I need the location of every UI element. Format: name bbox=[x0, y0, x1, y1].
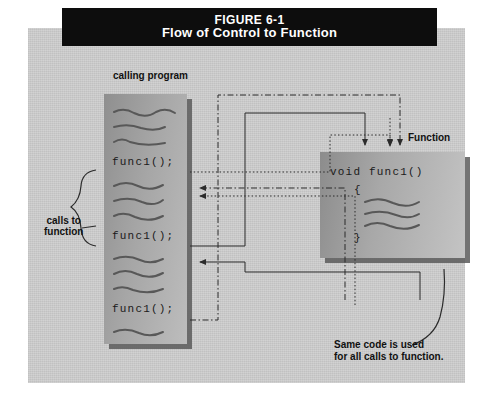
label-calls-to-function: calls to function bbox=[44, 215, 83, 237]
calling-program-call-1: func1(); bbox=[112, 156, 174, 168]
calling-program-box: func1(); func1(); func1(); bbox=[104, 94, 187, 344]
function-close-brace: } bbox=[354, 232, 362, 244]
label-calls-to-function-line1: calls to bbox=[44, 215, 83, 226]
figure-caption-title: Flow of Control to Function bbox=[162, 26, 337, 40]
label-same-code-line1: Same code is used bbox=[334, 339, 443, 351]
function-signature: void func1() bbox=[330, 166, 424, 178]
figure-caption-bar: FIGURE 6-1 Flow of Control to Function bbox=[62, 8, 437, 46]
label-same-code-line2: for all calls to function. bbox=[334, 351, 443, 363]
calling-program-call-2: func1(); bbox=[112, 230, 174, 242]
calling-program-call-3: func1(); bbox=[112, 303, 174, 315]
label-same-code-is-used: Same code is used for all calls to funct… bbox=[334, 339, 443, 363]
label-function: Function bbox=[408, 132, 450, 144]
label-calls-to-function-line2: function bbox=[44, 226, 83, 237]
label-calling-program: calling program bbox=[113, 70, 188, 82]
function-open-brace: { bbox=[354, 184, 362, 196]
function-definition-box: void func1() { } bbox=[320, 152, 465, 258]
